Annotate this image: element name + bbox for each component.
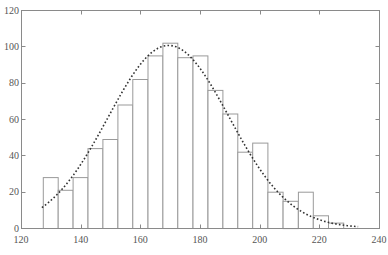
x-tick-label: 240 bbox=[372, 234, 387, 245]
x-tick-label: 120 bbox=[14, 234, 29, 245]
x-tick-label: 160 bbox=[133, 234, 148, 245]
y-tick-label: 60 bbox=[9, 114, 19, 125]
y-axis-tick-labels: 020406080100120 bbox=[4, 5, 19, 234]
x-tick-label: 180 bbox=[193, 234, 208, 245]
histogram-bar bbox=[148, 56, 163, 229]
histogram-bar bbox=[58, 190, 73, 228]
y-tick-label: 20 bbox=[9, 186, 19, 197]
y-tick-label: 100 bbox=[4, 41, 19, 52]
y-tick-label: 120 bbox=[4, 5, 19, 16]
histogram-bar bbox=[133, 80, 148, 229]
y-tick-label: 0 bbox=[14, 223, 19, 234]
histogram-bar bbox=[313, 216, 328, 229]
y-tick-label: 80 bbox=[9, 77, 19, 88]
histogram-bar bbox=[88, 149, 103, 229]
histogram-bars bbox=[43, 43, 343, 228]
histogram-bar bbox=[178, 58, 193, 229]
histogram-bar bbox=[268, 192, 283, 228]
figure-caption-clipped bbox=[60, 250, 330, 255]
histogram-bar bbox=[283, 201, 298, 228]
histogram-bar bbox=[103, 140, 118, 229]
histogram-bar bbox=[208, 90, 223, 228]
y-tick-label: 40 bbox=[9, 150, 19, 161]
histogram-bar bbox=[73, 178, 88, 229]
histogram-bar bbox=[193, 56, 208, 229]
x-tick-label: 140 bbox=[73, 234, 88, 245]
x-tick-label: 200 bbox=[252, 234, 267, 245]
x-axis-tick-labels: 120140160180200220240 bbox=[14, 234, 387, 245]
histogram-bar bbox=[253, 143, 268, 228]
histogram-bar bbox=[118, 105, 133, 229]
histogram-chart: 120140160180200220240 020406080100120 bbox=[0, 0, 388, 255]
histogram-bar bbox=[238, 152, 253, 228]
histogram-bar bbox=[163, 43, 178, 228]
x-tick-label: 220 bbox=[312, 234, 327, 245]
histogram-bar bbox=[43, 178, 58, 229]
histogram-bar bbox=[223, 114, 238, 229]
